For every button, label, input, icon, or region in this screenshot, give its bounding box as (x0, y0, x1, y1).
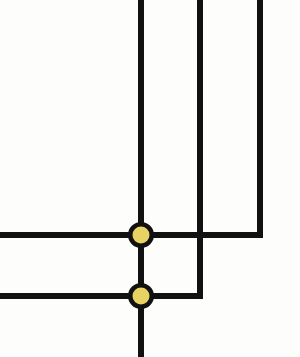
junction-node-lower (130, 285, 152, 307)
diagram-canvas (0, 0, 300, 357)
node-upper-ring (130, 224, 152, 246)
junction-node-upper (130, 224, 152, 246)
node-lower-ring (130, 285, 152, 307)
wire-diagram-svg (0, 0, 300, 357)
